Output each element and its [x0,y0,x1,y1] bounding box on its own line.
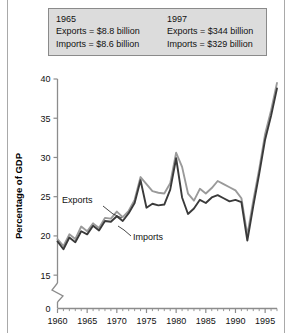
series-label-imports: Imports [133,232,164,242]
x-tick-label: 1960 [47,316,67,326]
chart-figure: 1965 Exports = $8.8 billion Imports = $8… [0,0,292,333]
y-tick-label: 30 [40,153,50,163]
x-tick-label: 1980 [166,316,186,326]
y-tick-label: 40 [40,74,50,84]
x-tick-label: 1985 [196,316,216,326]
y-tick-label: 25 [40,192,50,202]
y-axis-title: Percentage of GDP [13,152,24,239]
y-tick-label: 20 [40,231,50,241]
x-tick-label: 1995 [255,316,275,326]
x-tick-label: 1970 [107,316,127,326]
x-tick-label: 1990 [225,316,245,326]
x-tick-label: 1965 [77,316,97,326]
x-axis-tick-labels: 19601965197019751980198519901995 [47,316,275,326]
x-axis-major-ticks [58,309,266,314]
y-axis-tick-labels: 1520253035400 [40,74,50,313]
series-label-exports: Exports [62,195,93,205]
plot-area: 1520253035400 19601965197019751980198519… [0,0,292,333]
leader-line-imports [118,226,131,236]
series-line-imports [58,88,278,249]
y-axis-break-icon [52,283,63,302]
y-tick-label: 15 [40,271,50,281]
x-tick-label: 1975 [136,316,156,326]
y-tick-label: 35 [40,114,50,124]
y-tick-label-zero: 0 [45,304,50,314]
